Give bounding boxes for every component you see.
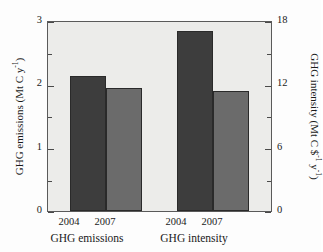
right-tick-15: [267, 54, 271, 55]
right-tick-label-18: 18: [277, 15, 295, 26]
bar-intensity-2004: [177, 31, 213, 211]
left-tick-3: [48, 22, 54, 23]
left-tick-0p5: [48, 181, 52, 182]
bar-emissions-2004: [70, 76, 106, 211]
left-tick-label-1: 1: [26, 142, 42, 153]
right-tick-label-6: 6: [277, 142, 295, 153]
left-tick-label-2: 2: [26, 78, 42, 89]
xtick-label-emissions-2007: 2007: [85, 216, 125, 227]
bar-intensity-2007: [213, 91, 249, 211]
right-axis-title-mid: y: [309, 162, 321, 170]
xtick-label-intensity-2004: 2004: [156, 216, 196, 227]
right-tick-label-12: 12: [277, 78, 295, 89]
right-tick-12: [265, 86, 271, 87]
left-axis-title-text: GHG emissions (Mt C y: [13, 68, 25, 176]
right-axis-title: GHG intensity (Mt C $-1 y-1): [306, 21, 320, 212]
left-axis-title-tail: ): [13, 58, 25, 62]
right-tick-label-0: 0: [277, 205, 295, 216]
right-tick-0: [265, 212, 271, 213]
bar-emissions-2007: [106, 88, 142, 211]
plot-area: [47, 21, 272, 212]
right-axis-title-text: GHG intensity (Mt C $: [309, 53, 321, 155]
left-tick-2: [48, 86, 54, 87]
left-tick-2p5: [48, 54, 52, 55]
left-axis-title-exponent: -1: [11, 61, 20, 67]
right-axis-title-tail: ): [309, 176, 321, 180]
left-tick-label-0: 0: [26, 205, 42, 216]
right-tick-9: [267, 117, 271, 118]
group-label-ghg-emissions: GHG emissions: [27, 232, 147, 244]
left-tick-1p5: [48, 117, 52, 118]
left-axis-title: GHG emissions (Mt C y-1): [14, 21, 28, 212]
left-tick-1: [48, 149, 54, 150]
xtick-label-intensity-2007: 2007: [192, 216, 232, 227]
right-tick-18: [265, 22, 271, 23]
left-tick-0: [48, 212, 54, 213]
group-label-ghg-intensity: GHG intensity: [134, 232, 254, 244]
xtick-label-emissions-2004: 2004: [49, 216, 89, 227]
right-tick-3: [267, 181, 271, 182]
left-tick-label-3: 3: [26, 15, 42, 26]
right-tick-6: [265, 149, 271, 150]
